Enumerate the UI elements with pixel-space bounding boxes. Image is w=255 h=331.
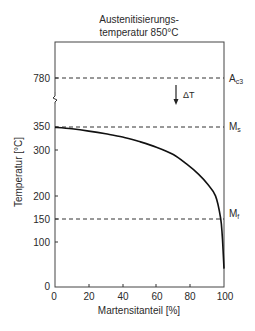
ac3-label: Ac3 [229, 73, 243, 85]
chart-title-line-2: temperatur 850°C [99, 27, 178, 38]
x-tick-40: 40 [117, 291, 129, 302]
mf-label: Mf [229, 208, 239, 220]
ms-label: Ms [229, 121, 241, 133]
x-tick-0: 0 [51, 291, 57, 302]
x-tick-100: 100 [217, 291, 234, 302]
x-axis-label: Martensitanteil [%] [98, 305, 180, 316]
delta-t-label: ΔT [183, 90, 195, 100]
y-tick-780: 780 [33, 73, 50, 84]
chart: Austenitisierungs- temperatur 850°C Ac3 … [0, 0, 255, 331]
martensite-curve [55, 127, 224, 268]
axis-break-icon [52, 92, 58, 104]
x-tick-80: 80 [184, 291, 196, 302]
plot-frame [55, 42, 224, 287]
y-axis-label: Temperatur [°C] [13, 137, 24, 207]
x-tick-20: 20 [83, 291, 95, 302]
y-tick-350: 350 [33, 121, 50, 132]
chart-title-line-1: Austenitisierungs- [99, 14, 178, 25]
y-tick-300: 300 [33, 145, 50, 156]
y-tick-150: 150 [33, 214, 50, 225]
x-tick-60: 60 [151, 291, 163, 302]
y-tick-100: 100 [33, 237, 50, 248]
y-tick-200: 200 [33, 191, 50, 202]
y-tick-0: 0 [44, 281, 50, 292]
delta-t-arrow-icon [174, 85, 179, 105]
